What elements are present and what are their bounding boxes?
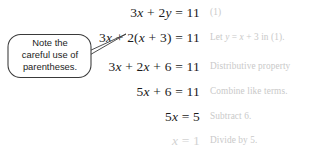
callout-line-2: careful use of [11,49,89,61]
callout-line-3: parentheses. [11,61,89,73]
derivation-step-row: 3x + 2y = 11(1) [0,0,311,25]
step-reason: Let y = x + 3 in (1). [210,25,311,50]
step-reason: Distributive property [210,54,311,79]
step-equation: 3x + 2y = 11 [0,0,200,25]
step-reason: Divide by 5. [210,128,311,153]
step-reason: Combine like terms. [210,79,311,104]
derivation-step-row: 5x = 5Subtract 6. [0,104,311,129]
parentheses-callout: Note the careful use of parentheses. [0,28,140,84]
step-reason: Subtract 6. [210,104,311,129]
callout-pointer-icon [88,34,126,56]
step-equation: x = 1 [0,128,200,153]
callout-text: Note the careful use of parentheses. [11,37,89,74]
derivation-step-row: x = 1Divide by 5. [0,128,311,153]
callout-line-1: Note the [11,37,89,49]
derivation-figure: 3x + 2y = 11(1)3x + 2(x + 3) = 11Let y =… [0,0,311,158]
step-equation: 5x = 5 [0,104,200,129]
step-reason: (1) [210,0,311,25]
